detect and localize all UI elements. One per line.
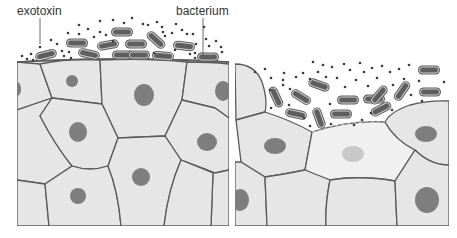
bacterial-exotoxin-diagram: exotoxin bacterium [0,0,457,238]
nucleus [134,84,154,106]
bacterium [111,28,133,37]
bacterium [392,79,412,102]
bacterium [337,96,359,105]
bacterium [289,87,312,106]
bacterium [125,40,147,49]
epithelial-cell [235,64,266,120]
epithelial-cell [326,178,397,226]
bacterium [419,88,441,97]
bacteria-left [34,28,219,63]
epithelial-cell [17,180,49,226]
nucleus [70,188,86,204]
label-bacterium: bacterium [176,4,229,18]
nucleus [13,82,21,96]
nucleus [66,75,78,87]
panel-damaged-epithelium [231,64,449,226]
bacterium [311,106,327,130]
panel-intact-epithelium [13,59,231,226]
bacterium [267,85,284,109]
nucleus [415,126,437,142]
nucleus [197,133,217,151]
label-exotoxin: exotoxin [17,4,62,18]
bacterium [197,53,219,62]
nucleus [415,187,439,213]
bacterium [66,39,88,48]
epithelial-cell [265,170,330,226]
bacterium [418,66,440,75]
nucleus [231,189,249,211]
faded-nucleus [342,146,364,162]
nucleus [215,81,231,101]
nucleus [264,138,286,154]
bacterium [128,51,150,60]
nucleus [69,122,87,142]
bacterium [330,110,352,119]
bacterium [96,39,119,52]
nucleus [132,168,150,186]
